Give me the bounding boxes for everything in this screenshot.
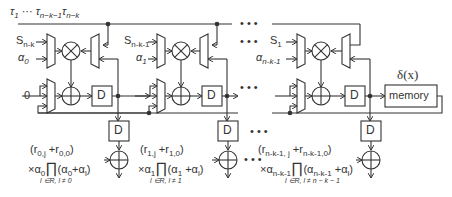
memory-block: memory: [389, 90, 429, 101]
output-register-d-1: D: [223, 124, 232, 136]
register-d-1: D: [207, 89, 216, 101]
syndrome-input-last: S1: [270, 35, 282, 46]
alpha-input-1: α1: [136, 52, 147, 63]
ellipsis-adder-row: • • •: [240, 82, 258, 93]
syndrome-input-1: Sn-k-1: [124, 35, 150, 46]
memory-title: δ(x): [397, 68, 418, 81]
expr-last-index: l ∈R, l ≠ n − k − 1: [285, 177, 340, 184]
output-register-d-0: D: [114, 124, 123, 136]
register-d-last: D: [350, 89, 359, 101]
tau-bus-label: τ1 ··· τn−k−1τn−k: [10, 6, 79, 17]
zero-input: 0: [24, 90, 30, 101]
expr-0-index: l ∈R, l ≠ 0: [40, 177, 72, 184]
ellipsis-register-row: • • •: [250, 126, 268, 137]
alpha-input-last: αn-k-1: [256, 52, 281, 63]
expr-last-line1: (rn-k-1, j +rn-k-1,0): [258, 144, 332, 155]
ellipsis-top: • • •: [240, 18, 258, 29]
ellipsis-mid: • • •: [240, 36, 258, 47]
output-register-d-last: D: [366, 124, 375, 136]
alpha-input-0: α0: [18, 52, 29, 63]
expr-1-line2: ×α1∏(α1 +αl): [138, 160, 203, 175]
expr-1-line1: (r1,j +r1,0): [140, 144, 184, 155]
expr-last-line2: ×αn-k-1∏(αn-k-1 +αl): [260, 160, 353, 175]
expr-0-line2: ×α0∏(α0+αl): [28, 160, 90, 175]
expr-0-line1: (r0,j +r0,0): [30, 144, 74, 155]
register-d-0: D: [97, 89, 106, 101]
syndrome-input-0: Sn-k: [16, 35, 34, 46]
expr-1-index: l ∈R, l ≠ 1: [150, 177, 182, 184]
